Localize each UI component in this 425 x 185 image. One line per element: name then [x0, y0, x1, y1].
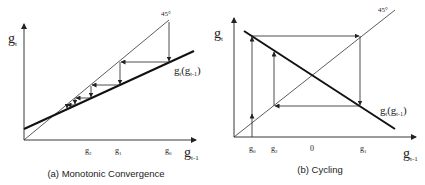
- diagonal-45-line: [234, 10, 395, 137]
- x-axis-label: gt-1: [184, 145, 199, 162]
- diagonal-label: 45°: [378, 6, 388, 14]
- function-line: [24, 51, 194, 129]
- tick-g0: g0: [165, 146, 172, 156]
- tick-g1: g1: [360, 144, 367, 154]
- tick-g2: g2: [271, 144, 278, 154]
- tick-g1: g1: [115, 146, 122, 156]
- tick-g0: g0: [249, 144, 256, 154]
- figure: gt gt-1 45° gt(gt-1) g2 g1 g0 (a) Monoto…: [0, 0, 425, 185]
- x-axis-label: gt-1: [403, 146, 418, 163]
- caption-b: (b) Cycling: [297, 164, 342, 175]
- caption-a: (a) Monotonic Convergence: [47, 168, 164, 179]
- y-axis-label: gt: [8, 31, 17, 48]
- function-label: gt(gt-1): [174, 64, 201, 77]
- tick-zero: 0: [310, 144, 314, 153]
- tick-g2: g2: [85, 146, 92, 156]
- cobweb-path: [67, 22, 169, 108]
- function-label: gt(gt-1): [380, 104, 407, 117]
- diagonal-label: 45°: [161, 10, 171, 18]
- panel-cycling: gt gt-1 45° gt(gt-1) g0 g2 0 g1 (b) Cycl…: [214, 6, 418, 175]
- y-axis-label: gt: [214, 26, 223, 43]
- diagonal-45-line: [24, 20, 169, 140]
- panel-monotonic-convergence: gt gt-1 45° gt(gt-1) g2 g1 g0 (a) Monoto…: [8, 10, 201, 179]
- function-line: [244, 31, 395, 129]
- cobweb-cycle: [252, 36, 360, 137]
